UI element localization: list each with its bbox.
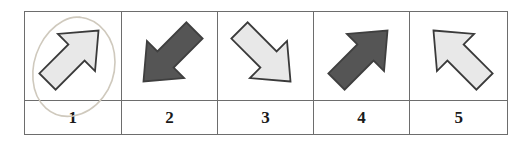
arrow-northeast-icon: [321, 15, 403, 97]
arrow-cell-3[interactable]: [218, 12, 314, 100]
arrow-southeast-icon: [224, 15, 306, 97]
arrow-northwest-icon: [418, 15, 500, 97]
arrow-northeast-icon: [32, 15, 114, 97]
arrow-row: [25, 12, 507, 100]
arrow-southwest-icon: [128, 15, 210, 97]
label-cell-3: 3: [218, 101, 314, 134]
label-cell-5: 5: [410, 101, 507, 134]
arrow-cell-2[interactable]: [122, 12, 219, 100]
arrow-cell-1[interactable]: [25, 12, 122, 100]
stimulus-grid: 1 2 3 4 5: [24, 11, 508, 135]
label-row: 1 2 3 4 5: [25, 100, 507, 134]
label-cell-2: 2: [122, 101, 219, 134]
arrow-cell-5[interactable]: [410, 12, 507, 100]
label-cell-4: 4: [314, 101, 411, 134]
label-cell-1: 1: [25, 101, 122, 134]
arrow-cell-4[interactable]: [314, 12, 411, 100]
